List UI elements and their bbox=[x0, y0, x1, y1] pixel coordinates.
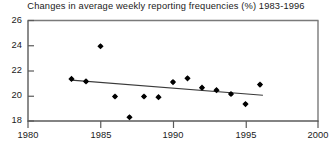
x-tick-label-1990: 1990 bbox=[156, 130, 190, 140]
data-point-core bbox=[142, 95, 145, 98]
plot-area bbox=[0, 0, 332, 143]
data-point-core bbox=[200, 86, 203, 89]
x-tick-marks bbox=[28, 121, 318, 128]
x-tick-label-1985: 1985 bbox=[84, 130, 118, 140]
data-point-core bbox=[229, 92, 232, 95]
x-tick-label-1980: 1980 bbox=[11, 130, 45, 140]
x-tick-label-2000: 2000 bbox=[301, 130, 332, 140]
data-point-core bbox=[244, 102, 247, 105]
y-tick-label-26: 26 bbox=[2, 15, 22, 25]
chart-figure: Changes in average weekly reporting freq… bbox=[0, 0, 332, 143]
data-point-core bbox=[215, 89, 218, 92]
y-tick-label-22: 22 bbox=[2, 65, 22, 75]
data-point-core bbox=[99, 45, 102, 48]
data-point-core bbox=[70, 77, 73, 80]
y-tick-label-18: 18 bbox=[2, 115, 22, 125]
data-point-core bbox=[113, 95, 116, 98]
data-point-core bbox=[128, 116, 131, 119]
trend-line-segment bbox=[72, 80, 263, 95]
data-point-core bbox=[157, 96, 160, 99]
data-point-core bbox=[84, 80, 87, 83]
data-point-core bbox=[258, 83, 261, 86]
axis-frame bbox=[28, 21, 319, 122]
x-tick-label-1995: 1995 bbox=[229, 130, 263, 140]
data-point-core bbox=[171, 80, 174, 83]
y-tick-marks bbox=[28, 21, 34, 122]
y-tick-label-24: 24 bbox=[2, 40, 22, 50]
y-tick-label-20: 20 bbox=[2, 90, 22, 100]
trend-line bbox=[72, 80, 263, 95]
data-point-core bbox=[186, 77, 189, 80]
